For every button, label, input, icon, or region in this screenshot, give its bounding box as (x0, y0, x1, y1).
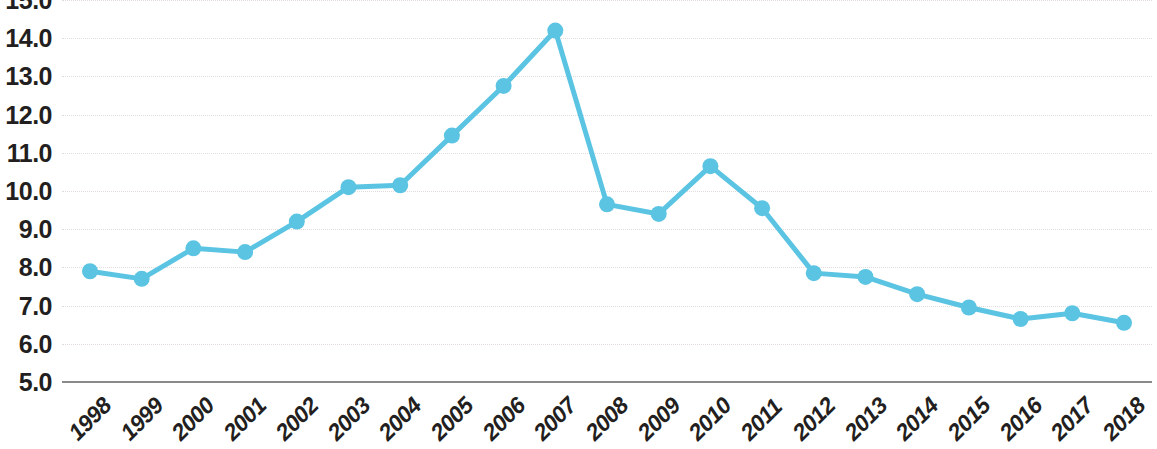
x-axis-tick-label: 2017 (1047, 394, 1098, 445)
x-axis-tick-label: 2007 (530, 394, 581, 445)
series-layer (62, 0, 1152, 382)
x-axis-tick-label: 2014 (892, 394, 943, 445)
data-point-marker[interactable] (1116, 315, 1132, 331)
x-axis-line (62, 381, 1152, 383)
data-point-marker[interactable] (1064, 305, 1080, 321)
x-axis-tick-label: 2003 (323, 394, 374, 445)
y-axis-tick-label: 13.0 (0, 64, 52, 89)
data-point-marker[interactable] (82, 263, 98, 279)
data-point-marker[interactable] (341, 179, 357, 195)
y-axis-tick-label: 5.0 (0, 370, 52, 395)
x-axis-tick-label: 1998 (65, 394, 116, 445)
y-axis-tick-label: 6.0 (0, 331, 52, 356)
y-axis: 15.014.013.012.011.010.09.08.07.06.05.0 (0, 0, 52, 382)
data-point-marker[interactable] (651, 206, 667, 222)
plot-area (62, 0, 1152, 382)
data-point-marker[interactable] (496, 78, 512, 94)
x-axis-tick-label: 2006 (478, 394, 529, 445)
x-axis-tick-label: 2005 (426, 394, 477, 445)
data-point-marker[interactable] (961, 300, 977, 316)
x-axis-tick-label: 2004 (375, 394, 426, 445)
x-axis-tick-label: 2011 (737, 395, 787, 445)
data-point-marker[interactable] (237, 244, 253, 260)
x-axis-tick-label: 1999 (116, 394, 167, 445)
y-axis-tick-label: 7.0 (0, 293, 52, 318)
line-chart: 15.014.013.012.011.010.09.08.07.06.05.0 … (0, 0, 1157, 449)
x-axis-tick-label: 2018 (1099, 394, 1150, 445)
x-axis-tick-label: 2009 (633, 394, 684, 445)
data-point-marker[interactable] (289, 214, 305, 230)
x-axis-tick-label: 2008 (582, 394, 633, 445)
data-point-marker[interactable] (806, 265, 822, 281)
x-axis-tick-label: 2012 (788, 394, 839, 445)
y-axis-tick-label: 9.0 (0, 217, 52, 242)
x-axis-tick-label: 2013 (840, 394, 891, 445)
data-point-marker[interactable] (909, 286, 925, 302)
y-axis-tick-label: 11.0 (0, 140, 52, 165)
data-point-marker[interactable] (702, 158, 718, 174)
series-line (90, 31, 1124, 323)
data-point-marker[interactable] (599, 196, 615, 212)
y-axis-tick-label: 12.0 (0, 102, 52, 127)
x-axis: 1998199920002001200220032004200520062007… (62, 386, 1152, 449)
x-axis-tick-label: 2015 (943, 394, 994, 445)
y-axis-tick-label: 15.0 (0, 0, 52, 13)
y-axis-tick-label: 10.0 (0, 179, 52, 204)
data-point-marker[interactable] (444, 128, 460, 144)
data-point-marker[interactable] (134, 271, 150, 287)
data-point-marker[interactable] (185, 240, 201, 256)
x-axis-tick-label: 2010 (685, 394, 736, 445)
y-axis-tick-label: 8.0 (0, 255, 52, 280)
y-axis-tick-label: 14.0 (0, 26, 52, 51)
data-point-marker[interactable] (392, 177, 408, 193)
data-point-marker[interactable] (1013, 311, 1029, 327)
x-axis-tick-label: 2001 (220, 394, 271, 445)
data-point-marker[interactable] (754, 200, 770, 216)
x-axis-tick-label: 2002 (271, 394, 322, 445)
x-axis-tick-label: 2000 (168, 394, 219, 445)
data-point-marker[interactable] (547, 23, 563, 39)
data-point-marker[interactable] (858, 269, 874, 285)
x-axis-tick-label: 2016 (995, 394, 1046, 445)
